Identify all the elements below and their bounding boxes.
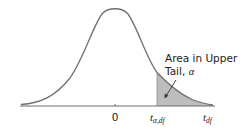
label-t-df: tdf [203, 111, 213, 125]
annotation-line1: Area in Upper [165, 52, 238, 64]
alpha-symbol: α [189, 66, 195, 77]
label-zero: 0 [112, 111, 119, 123]
upper-tail-area [157, 73, 213, 107]
annotation-line2: Tail, α [164, 65, 195, 77]
label-t-alpha-df: tα,df [150, 111, 166, 125]
t-distribution-diagram: Area in Upper Tail, α 0 tα,df tdf [0, 0, 251, 128]
